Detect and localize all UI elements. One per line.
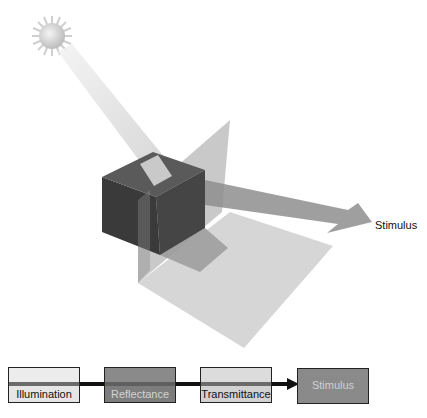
flow-box-label: Stimulus	[298, 379, 368, 391]
flow-box-label: Illumination	[9, 388, 79, 400]
illumination-scene	[0, 0, 427, 360]
flow-box-label: Transmittance	[201, 388, 271, 400]
flow-box-label: Reflectance	[105, 388, 175, 400]
flow-box-stimulus: Stimulus	[297, 368, 369, 404]
stimulus-arrow-label: Stimulus	[375, 219, 417, 231]
flow-box-illumination: Illumination	[8, 367, 80, 403]
vertical-plane-overlay	[138, 190, 150, 283]
flow-box-reflectance: Reflectance	[104, 367, 176, 403]
flow-box-transmittance: Transmittance	[200, 367, 272, 403]
